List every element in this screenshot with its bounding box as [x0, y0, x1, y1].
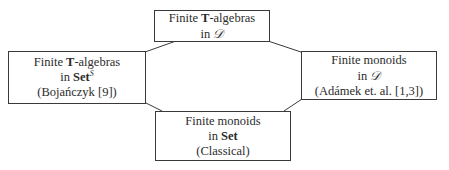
node-top-line1: Finite T-algebras: [169, 11, 255, 26]
text: Finite: [34, 55, 66, 69]
node-bottom-line3: (Classical): [196, 144, 249, 159]
text: in: [60, 70, 73, 84]
node-finite-monoids-in-set: Finite monoids in Set (Classical): [155, 111, 291, 161]
text: in: [208, 129, 221, 143]
node-left-line3: (Bojańczyk [9]): [37, 85, 116, 100]
node-top-line2: in 𝒟: [201, 26, 224, 42]
node-left-line2: in SetS: [60, 70, 94, 85]
node-right-line2: in 𝒟: [358, 68, 381, 84]
node-right-line3: (Adámek et. al. [1,3]): [315, 84, 423, 99]
node-finite-t-algebras-in-set-s: Finite T-algebras in SetS (Bojańczyk [9]…: [8, 51, 146, 104]
node-finite-monoids-in-d: Finite monoids in 𝒟 (Adámek et. al. [1,3…: [301, 51, 437, 100]
text: Finite: [169, 11, 201, 25]
node-finite-t-algebras-in-d: Finite T-algebras in 𝒟: [154, 10, 270, 42]
edge-top-left: [145, 41, 176, 52]
text: -algebras: [209, 11, 255, 25]
text: -algebras: [74, 55, 120, 69]
diagram: Finite T-algebras in 𝒟 Finite T-algebras…: [0, 0, 449, 170]
edge-top-right: [268, 41, 301, 52]
node-bottom-line1: Finite monoids: [185, 114, 260, 129]
edge-left-bottom: [144, 102, 162, 111]
superscript-s: S: [90, 69, 94, 78]
bold-set: Set: [73, 70, 90, 84]
edge-right-bottom: [284, 99, 302, 111]
node-right-line1: Finite monoids: [331, 53, 406, 68]
node-left-line1: Finite T-algebras: [34, 55, 120, 70]
script-d-symbol: 𝒟: [370, 68, 380, 83]
text: in: [201, 27, 214, 41]
bold-set: Set: [221, 129, 238, 143]
script-d-symbol: 𝒟: [213, 26, 223, 41]
text: in: [358, 69, 371, 83]
node-bottom-line2: in Set: [208, 129, 238, 144]
